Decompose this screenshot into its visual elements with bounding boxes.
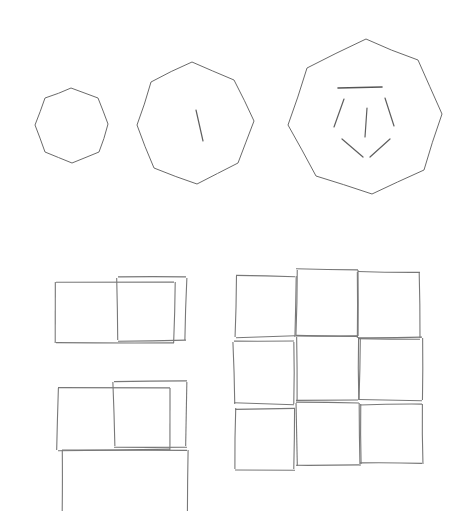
- tick-l-upper-left: [334, 99, 344, 127]
- rect-lower-right-edge: [113, 382, 115, 446]
- cell-r1c3-edge: [358, 339, 420, 340]
- sketch-canvas: [0, 0, 461, 511]
- octagon-small-edge: [98, 98, 108, 124]
- octagon-medium-edge: [154, 168, 197, 184]
- rect-upper-right-edge: [117, 278, 118, 340]
- cell-r2c1: [233, 341, 294, 405]
- rect-lower-bottom-edge: [187, 450, 188, 511]
- cell-r3c2-edge: [296, 403, 297, 466]
- octagon-small-edge: [45, 88, 71, 98]
- cell-r2c2-edge: [296, 336, 358, 337]
- octagon-large-ticks: [334, 87, 394, 157]
- rect-lower-right-edge: [114, 381, 187, 382]
- octagon-large-edge: [366, 39, 418, 60]
- cell-r3c1-edge: [235, 408, 236, 469]
- cell-r2c1-edge: [233, 342, 235, 404]
- sketch-drawing: [0, 0, 461, 511]
- cell-r2c3-edge: [359, 337, 422, 338]
- tick-l-upper-right: [385, 98, 394, 126]
- tick-l-lower-right: [370, 139, 390, 157]
- rect-upper-left: [55, 282, 175, 343]
- octagon-small-edge: [35, 98, 45, 125]
- cell-r1c3-edge: [358, 271, 420, 272]
- cell-r1c1-edge: [236, 275, 295, 276]
- tick-l-top: [338, 87, 382, 88]
- octagon-large-edge: [418, 60, 442, 114]
- polygon-row-group: [35, 39, 442, 194]
- octagon-large-edge: [316, 176, 372, 194]
- rect-lower-right-edge: [186, 382, 187, 446]
- cell-r3c3-edge: [360, 463, 422, 464]
- rect-upper-right-edge: [118, 340, 186, 341]
- octagon-medium-edge: [192, 62, 234, 80]
- square-grid-group: [233, 269, 423, 471]
- cell-r3c1-edge: [294, 408, 295, 469]
- octagon-small-edge: [35, 125, 45, 152]
- octagon-large-edge: [307, 39, 366, 68]
- cell-r1c2: [296, 269, 358, 336]
- octagon-large-edge: [372, 170, 424, 194]
- octagon-small-edge: [45, 152, 72, 163]
- rect-lower-left-edge: [57, 388, 59, 450]
- octagon-medium-edge: [238, 121, 254, 163]
- octagon-medium: [137, 62, 254, 184]
- cell-r1c3: [357, 271, 420, 339]
- cell-r3c1: [235, 408, 295, 470]
- cell-r1c2-edge: [296, 269, 358, 270]
- cell-r3c2: [296, 402, 360, 466]
- octagon-medium-ticks: [196, 110, 203, 141]
- cell-r1c1: [235, 275, 296, 337]
- octagon-small-edge: [71, 88, 98, 98]
- cell-r1c1-edge: [236, 336, 295, 338]
- cell-r2c2: [296, 336, 359, 401]
- cell-r3c3: [360, 404, 423, 464]
- rect-lower-right: [113, 381, 187, 447]
- cell-r3c2-edge: [296, 402, 359, 403]
- octagon-large-edge: [424, 114, 442, 170]
- cell-r3c3-edge: [360, 404, 422, 405]
- rect-pair-upper-group: [55, 277, 187, 343]
- cell-r3c1-edge: [235, 408, 295, 409]
- rect-upper-right-edge: [185, 278, 187, 340]
- octagon-large-edge: [288, 68, 307, 125]
- cell-r2c3: [359, 337, 423, 401]
- cell-r2c3-edge: [359, 399, 422, 400]
- cell-r1c1-edge: [235, 276, 236, 337]
- cell-r3c3-edge: [422, 404, 423, 464]
- tick-l-lower-left: [342, 139, 363, 157]
- octagon-small-edge: [99, 124, 108, 152]
- octagon-medium-edge: [137, 82, 151, 125]
- octagon-small: [35, 88, 108, 163]
- octagon-large: [288, 39, 442, 194]
- octagon-medium-edge: [234, 80, 254, 121]
- rect-stack-lower-group: [57, 381, 188, 511]
- octagon-large-edge: [288, 125, 316, 176]
- rect-lower-bottom: [62, 450, 188, 511]
- octagon-medium-edge: [197, 163, 238, 184]
- cell-r2c3-edge: [359, 338, 360, 400]
- octagon-medium-edge: [151, 62, 192, 82]
- rect-upper-right: [117, 277, 187, 342]
- rect-upper-left-edge: [174, 282, 176, 343]
- cell-r1c3-edge: [419, 272, 420, 338]
- tick-m1: [196, 110, 203, 141]
- tick-l-center: [365, 108, 367, 137]
- octagon-small-edge: [72, 152, 99, 163]
- cell-r3c2-edge: [359, 403, 360, 466]
- cell-r2c1-edge: [234, 403, 294, 405]
- octagon-medium-edge: [137, 125, 154, 168]
